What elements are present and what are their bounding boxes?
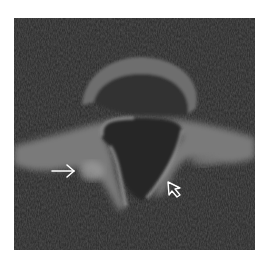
ct-scan-graphic <box>14 18 255 250</box>
right-facet <box>190 154 218 166</box>
ct-scan-image <box>14 18 255 250</box>
left-facet <box>80 161 104 181</box>
